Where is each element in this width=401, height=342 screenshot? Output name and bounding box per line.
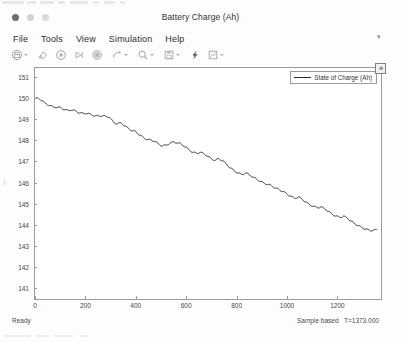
- menu-item-simulation[interactable]: Simulation: [109, 34, 153, 44]
- x-tick-mark: [287, 296, 288, 299]
- legend-line-icon: [294, 77, 311, 78]
- configuration-parameters-icon[interactable]: [36, 49, 49, 62]
- zoom-caret-icon[interactable]: [149, 49, 155, 62]
- plot-canvas: [35, 68, 381, 299]
- y-tick-label-141: 141: [18, 285, 29, 292]
- y-tick-label-148: 148: [18, 137, 29, 144]
- statusbar: Ready Sample based T=1373.000: [0, 316, 401, 330]
- signal-statistics-icon[interactable]: [206, 49, 219, 62]
- cursor-measurements-icon[interactable]: [188, 49, 201, 62]
- x-tick-label-600: 600: [181, 302, 192, 309]
- menu-item-view[interactable]: View: [76, 34, 96, 44]
- x-tick-label-1000: 1000: [280, 302, 294, 309]
- y-tick-label-146: 146: [18, 179, 29, 186]
- toolbar: [0, 47, 401, 63]
- save-layout-caret-icon[interactable]: [175, 49, 181, 62]
- series-line-0: [35, 98, 377, 231]
- scope-window: Battery Charge (Ah) File Tools View Simu…: [0, 0, 401, 342]
- simulation-stepping-caret-icon[interactable]: [123, 49, 129, 62]
- y-tick-mark: [34, 119, 37, 120]
- print-icon[interactable]: [10, 49, 23, 62]
- y-tick-mark: [34, 288, 37, 289]
- y-tick-mark: [34, 140, 37, 141]
- menubar: File Tools View Simulation Help: [0, 31, 401, 46]
- simulation-stepping-icon[interactable]: [110, 49, 123, 62]
- y-tick-mark: [34, 183, 37, 184]
- x-tick-mark: [85, 296, 86, 299]
- save-layout-icon[interactable]: [162, 49, 175, 62]
- run-icon[interactable]: [54, 49, 67, 62]
- y-tick-label-150: 150: [18, 94, 29, 101]
- y-tick-label-142: 142: [18, 264, 29, 271]
- x-tick-mark: [136, 296, 137, 299]
- menu-item-file[interactable]: File: [13, 34, 28, 44]
- y-tick-mark: [34, 161, 37, 162]
- x-tick-label-800: 800: [231, 302, 242, 309]
- window-title: Battery Charge (Ah): [0, 12, 401, 22]
- plot-corner-badge-icon[interactable]: ⊞: [375, 63, 386, 74]
- zoom-icon[interactable]: [136, 49, 149, 62]
- scan-artifact-strip: [0, 0, 401, 7]
- y-tick-label-151: 151: [18, 73, 29, 80]
- window-titlebar: Battery Charge (Ah): [0, 10, 401, 28]
- toolbar-overflow-caret-icon[interactable]: ▾: [377, 33, 381, 41]
- y-tick-mark: [34, 77, 37, 78]
- status-time-text: T=1373.000: [344, 317, 379, 324]
- y-tick-label-149: 149: [18, 115, 29, 122]
- y-tick-mark: [34, 246, 37, 247]
- y-tick-mark: [34, 204, 37, 205]
- plot-area[interactable]: State of Charge (Ah) ⊞: [34, 67, 382, 300]
- print-caret-icon[interactable]: [23, 49, 29, 62]
- x-axis-labels: 020040060080010001200: [0, 302, 401, 316]
- x-tick-label-400: 400: [130, 302, 141, 309]
- x-tick-mark: [337, 296, 338, 299]
- step-forward-icon[interactable]: [72, 49, 85, 62]
- menu-item-help[interactable]: Help: [165, 34, 184, 44]
- x-tick-mark: [186, 296, 187, 299]
- chart-series-svg: [35, 68, 381, 299]
- y-tick-mark: [34, 98, 37, 99]
- y-tick-mark: [34, 225, 37, 226]
- status-mode-text: Sample based: [297, 317, 339, 324]
- x-tick-label-1200: 1200: [330, 302, 344, 309]
- legend-label-state-of-charge: State of Charge (Ah): [314, 74, 372, 81]
- signal-statistics-caret-icon[interactable]: [219, 49, 225, 62]
- x-tick-label-0: 0: [33, 302, 37, 309]
- y-tick-label-147: 147: [18, 158, 29, 165]
- y-axis-title: —: [1, 179, 7, 185]
- menu-item-tools[interactable]: Tools: [41, 34, 63, 44]
- y-tick-label-143: 143: [18, 243, 29, 250]
- x-tick-label-200: 200: [80, 302, 91, 309]
- chart-legend[interactable]: State of Charge (Ah): [290, 71, 377, 84]
- bottom-artifact-strip: [0, 333, 401, 340]
- y-tick-label-144: 144: [18, 221, 29, 228]
- y-tick-mark: [34, 267, 37, 268]
- stop-icon[interactable]: [90, 49, 103, 62]
- status-ready-text: Ready: [12, 317, 31, 324]
- x-tick-mark: [237, 296, 238, 299]
- y-tick-label-145: 145: [18, 200, 29, 207]
- x-tick-mark: [35, 296, 36, 299]
